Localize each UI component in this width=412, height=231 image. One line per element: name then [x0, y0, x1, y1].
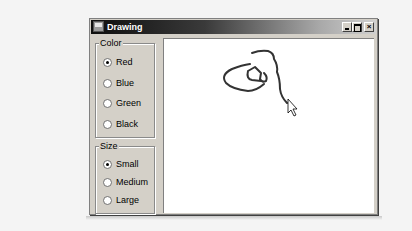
- drawing-window: Drawing × Color Red Blue Green Black Siz…: [89, 18, 378, 215]
- radio-black[interactable]: Black: [103, 118, 138, 130]
- window-shadow: [86, 216, 382, 220]
- radio-label: Small: [116, 159, 139, 169]
- radio-label: Black: [116, 119, 138, 129]
- mouse-cursor-icon: [288, 99, 297, 116]
- radio-button-icon[interactable]: [103, 99, 112, 108]
- minimize-button[interactable]: [342, 22, 352, 32]
- radio-blue[interactable]: Blue: [103, 77, 134, 89]
- radio-button-icon[interactable]: [103, 196, 112, 205]
- color-group-label: Color: [99, 38, 123, 49]
- radio-label: Medium: [116, 177, 148, 187]
- size-group-label: Size: [99, 141, 119, 152]
- radio-label: Blue: [116, 78, 134, 88]
- freehand-stroke: [224, 51, 287, 103]
- radio-green[interactable]: Green: [103, 97, 141, 109]
- color-groupbox: Color Red Blue Green Black: [95, 43, 155, 138]
- size-groupbox: Size Small Medium Large: [95, 146, 155, 214]
- radio-button-icon[interactable]: [103, 58, 112, 67]
- radio-button-icon[interactable]: [103, 79, 112, 88]
- radio-large[interactable]: Large: [103, 194, 139, 206]
- radio-small[interactable]: Small: [103, 158, 139, 170]
- radio-button-icon[interactable]: [103, 178, 112, 187]
- app-icon[interactable]: [93, 21, 104, 32]
- maximize-button[interactable]: [352, 22, 362, 32]
- title-bar[interactable]: Drawing ×: [91, 20, 376, 34]
- close-button[interactable]: ×: [364, 22, 374, 32]
- radio-red[interactable]: Red: [103, 56, 133, 68]
- radio-button-icon[interactable]: [103, 120, 112, 129]
- drawing-canvas[interactable]: [163, 38, 374, 213]
- radio-label: Large: [116, 195, 139, 205]
- radio-label: Red: [116, 57, 133, 67]
- radio-label: Green: [116, 98, 141, 108]
- radio-medium[interactable]: Medium: [103, 176, 148, 188]
- window-title: Drawing: [107, 21, 143, 33]
- radio-button-icon[interactable]: [103, 160, 112, 169]
